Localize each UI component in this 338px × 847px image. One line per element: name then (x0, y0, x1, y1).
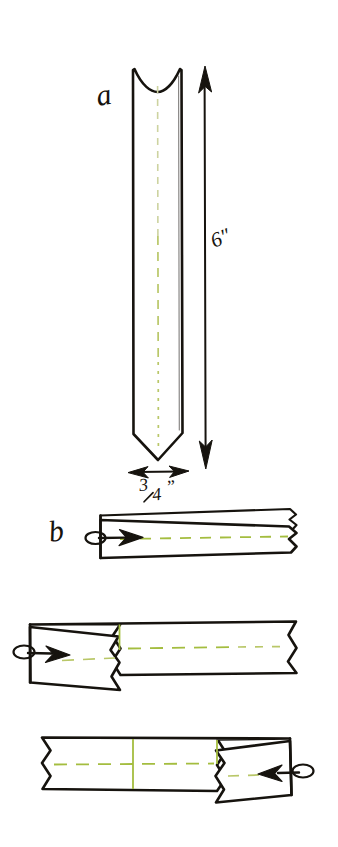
width-dimension-denominator: 4 (151, 484, 162, 505)
length-dimension-label: 6″ (207, 223, 234, 253)
width-dimension-unit: ” (164, 476, 176, 497)
panel-d-right-end (290, 739, 292, 796)
panel-d (42, 738, 314, 803)
panel-a-letter: a (93, 77, 114, 112)
figure-root: a b 6″ 3 4 ” (0, 0, 338, 847)
panel-c (14, 622, 297, 691)
panel-b-letter: b (46, 513, 65, 548)
figure-illustration: a b 6″ 3 4 ” (0, 0, 338, 847)
length-dimension-arrow (199, 66, 213, 469)
panel-a-strip-inner-edge (179, 76, 180, 430)
width-dimension-label: 3 4 ” (137, 471, 178, 506)
panel-a (128, 66, 212, 478)
panel-b (86, 509, 297, 558)
